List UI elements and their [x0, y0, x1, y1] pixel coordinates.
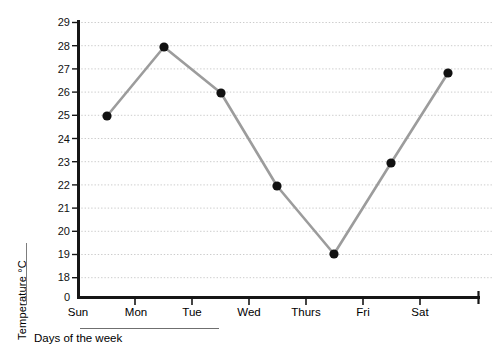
data-point-thurs	[329, 249, 338, 258]
data-point-sat	[443, 68, 452, 77]
temperature-series-line	[107, 47, 448, 254]
plot-area	[0, 0, 501, 363]
data-point-mon	[159, 42, 168, 51]
temperature-line-chart: 29 28 27 26 25 24 23 22 21 20 19 18 0 Te…	[0, 0, 501, 363]
data-point-tue	[216, 88, 225, 97]
gridlines	[78, 23, 492, 278]
data-point-sun	[102, 111, 111, 120]
data-point-fri	[386, 158, 395, 167]
data-point-wed	[272, 181, 281, 190]
